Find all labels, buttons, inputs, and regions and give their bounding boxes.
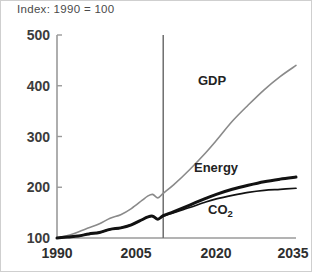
series-annotation-energy: Energy: [194, 160, 239, 175]
x-tick-label-2005: 2005: [120, 245, 151, 261]
y-tick-label-100: 100: [27, 230, 51, 246]
y-tick-label-500: 500: [27, 27, 51, 43]
x-tick-label-2035: 2035: [277, 245, 308, 261]
series-annotation-gdp: GDP: [198, 73, 227, 88]
series-line-energy: [57, 177, 296, 238]
x-tick-label-2020: 2020: [200, 245, 231, 261]
y-tick-label-300: 300: [27, 129, 51, 145]
y-tick-label-200: 200: [27, 179, 51, 195]
series-annotation-co2: CO2: [208, 202, 233, 219]
x-tick-label-1990: 1990: [41, 245, 72, 261]
chart-plot-area: 500 400 300 200 100 1990 2005 2020 2035 …: [0, 0, 312, 272]
y-tick-label-400: 400: [27, 78, 51, 94]
chart-container: Index: 1990 = 100 500 400 300 200 100 19…: [0, 0, 312, 272]
series-line-co2: [57, 188, 296, 238]
